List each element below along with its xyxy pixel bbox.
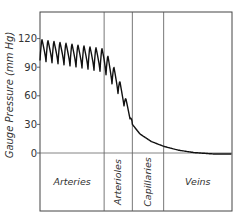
y-tick-label: 120 xyxy=(18,33,37,44)
y-axis-label: Gauge Pressure (mm Hg) xyxy=(4,32,15,159)
region-label-veins: Veins xyxy=(185,176,210,187)
y-tick-label: 90 xyxy=(24,62,37,73)
region-labels: ArteriesArteriolesCapillariesVeins xyxy=(52,157,210,207)
region-label-arterioles: Arterioles xyxy=(112,159,123,206)
y-axis-ticks: 0306090120 xyxy=(18,33,40,158)
y-tick-label: 30 xyxy=(24,119,37,130)
pressure-chart: 0306090120 Gauge Pressure (mm Hg) Arteri… xyxy=(0,0,247,224)
pressure-curve xyxy=(40,40,231,154)
y-tick-label: 60 xyxy=(24,90,37,101)
y-tick-label: 0 xyxy=(31,148,37,159)
region-label-arteries: Arteries xyxy=(52,176,90,187)
region-label-capillaries: Capillaries xyxy=(142,157,153,207)
